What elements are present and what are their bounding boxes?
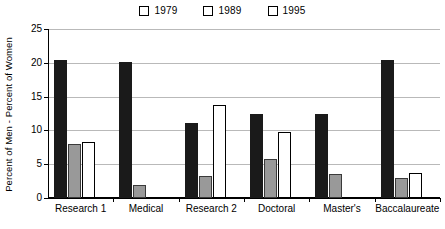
bar-1979: [381, 60, 394, 198]
y-axis-title-text: Percent of Men - Percent of Women: [3, 37, 14, 192]
legend-label-1989: 1989: [218, 6, 241, 16]
x-axis-label: Baccalaureate: [375, 203, 439, 215]
bar-1979: [250, 114, 263, 198]
category-separator: [113, 198, 114, 202]
bar-1989: [199, 176, 212, 198]
bar-1989: [329, 174, 342, 198]
bar-1989: [395, 178, 408, 198]
bar-1979: [315, 114, 328, 199]
bar-group: [48, 29, 113, 198]
bar-group: [113, 29, 178, 198]
bar-1995: [213, 105, 226, 198]
bar-group: [179, 29, 244, 198]
y-tick-label-10: 10: [31, 125, 42, 135]
category-separator: [244, 198, 245, 202]
bar-group: [309, 29, 374, 198]
y-tick-label-5: 5: [36, 159, 42, 169]
category-separator: [375, 198, 376, 202]
bar-1995: [409, 173, 422, 198]
category-separator: [179, 198, 180, 202]
y-tick-label-0: 0: [36, 193, 42, 203]
bar-1989: [133, 185, 146, 198]
legend-label-1995: 1995: [283, 6, 306, 16]
legend-swatch-1995: [268, 6, 278, 16]
x-axis-label: Medical: [129, 203, 163, 215]
x-axis-label: Doctoral: [258, 203, 295, 215]
plot-area: 0510152025: [48, 29, 440, 198]
bar-group: [244, 29, 309, 198]
legend-entry-1989: 1989: [203, 6, 241, 16]
bar-1979: [119, 62, 132, 198]
bar-groups: [48, 29, 440, 198]
y-tick-label-20: 20: [31, 58, 42, 68]
bar-1989: [68, 144, 81, 198]
category-separator: [309, 198, 310, 202]
x-axis-label: Research 1: [55, 203, 106, 215]
legend-swatch-1989: [203, 6, 213, 16]
legend-entry-1979: 1979: [139, 6, 177, 16]
bar-1995: [82, 142, 95, 198]
legend-label-1979: 1979: [154, 6, 177, 16]
bar-1989: [264, 159, 277, 198]
bar-chart-figure: 1979 1989 1995 Percent of Men - Percent …: [0, 0, 445, 229]
bar-1979: [54, 60, 67, 198]
category-separator: [440, 198, 441, 202]
bar-group: [375, 29, 440, 198]
y-axis-title: Percent of Men - Percent of Women: [0, 28, 16, 200]
legend-swatch-1979: [139, 6, 149, 16]
x-axis-label: Master's: [323, 203, 360, 215]
legend-entry-1995: 1995: [268, 6, 306, 16]
y-tick-label-25: 25: [31, 24, 42, 34]
bar-1979: [185, 123, 198, 198]
x-axis-labels: Research 1MedicalResearch 2DoctoralMaste…: [48, 203, 440, 219]
y-tick-label-15: 15: [31, 92, 42, 102]
chart-legend: 1979 1989 1995: [0, 6, 445, 16]
x-axis-label: Research 2: [186, 203, 237, 215]
bar-1995: [278, 132, 291, 198]
